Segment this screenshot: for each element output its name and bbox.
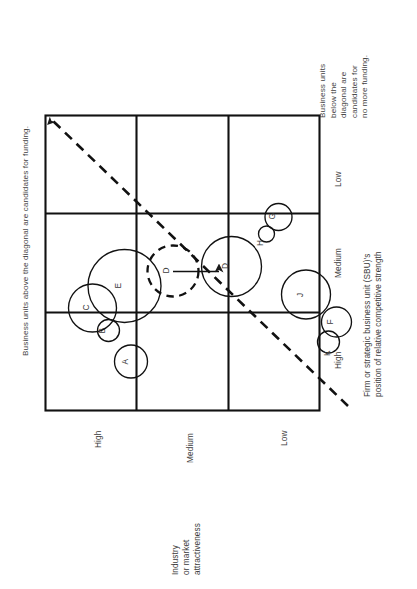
note-above-diagonal: Business units above the diagonal are ca… xyxy=(21,126,32,356)
bubble-d_solid: D xyxy=(202,237,262,297)
bubble-c: C xyxy=(69,284,117,332)
y-axis-tick-low: Low xyxy=(280,431,289,446)
matrix-frame xyxy=(46,116,320,411)
bubble-label-d_solid: D xyxy=(220,263,230,269)
bubble-circle-d_solid xyxy=(202,237,262,297)
x-axis-tick-low: Low xyxy=(334,172,343,187)
bubble-label-g: G xyxy=(267,213,277,220)
bubble-label-d_dash: D xyxy=(161,267,171,273)
bubble-label-e: E xyxy=(113,283,123,289)
x-axis-tick-high: High xyxy=(334,352,343,369)
bubble-label-h: H xyxy=(255,240,265,246)
matrix-gridlines xyxy=(46,116,320,411)
note-below-diagonal: Business units below the diagonal are ca… xyxy=(318,55,371,118)
figure-canvas: ABCEDDJGHFK Business units above the dia… xyxy=(0,0,417,589)
bubble-label-a: A xyxy=(120,359,130,365)
y-axis-tick-medium: Medium xyxy=(186,433,195,463)
bubble-label-k: K xyxy=(322,350,332,356)
y-axis-title: Industry or market attractiveness xyxy=(170,523,203,575)
y-axis-tick-high: High xyxy=(94,431,103,448)
bubble-label-j: J xyxy=(295,293,305,297)
x-axis-title: Firm or strategic business unit (SBU)'s … xyxy=(362,251,384,397)
bubble-circle-h xyxy=(259,226,275,242)
bubble-f: F xyxy=(322,307,352,337)
bubble-circle-c xyxy=(69,284,117,332)
bubble-a: A xyxy=(115,345,148,378)
bubble-layer: ABCEDDJGHFK xyxy=(69,204,352,379)
x-axis-tick-medium: Medium xyxy=(334,248,343,278)
bubble-label-c: C xyxy=(81,304,91,310)
bubble-label-f: F xyxy=(325,319,335,324)
